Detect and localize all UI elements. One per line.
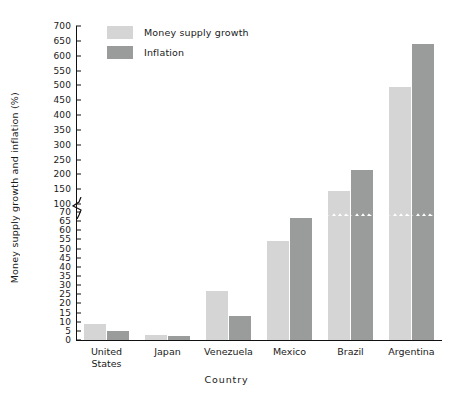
- bar: [107, 331, 129, 340]
- bar-group: [198, 26, 259, 340]
- x-axis-title: Country: [0, 374, 453, 385]
- y-tick-label-50: 50: [59, 244, 76, 254]
- y-tick-label-35: 35: [59, 271, 76, 281]
- y-tick-label-700: 700: [54, 21, 76, 31]
- bar: [206, 291, 228, 340]
- x-axis-label-japan: Japan: [137, 346, 198, 358]
- y-tick-label-350: 350: [54, 125, 76, 135]
- x-axis-label-brazil: Brazil: [320, 346, 381, 358]
- x-axis-label-mexico: Mexico: [259, 346, 320, 358]
- bar-break-icon: [412, 207, 434, 216]
- bar-group: [137, 26, 198, 340]
- y-tick-label-550: 550: [54, 66, 76, 76]
- bar-chart: Money supply growth and inflation (%) Mo…: [0, 0, 453, 401]
- bar: [290, 218, 312, 341]
- y-tick-label-25: 25: [59, 289, 76, 299]
- bar-groups: [76, 26, 442, 340]
- bar-break-icon: [328, 207, 350, 216]
- bar-group: [381, 26, 442, 340]
- bar-break-icon: [351, 207, 373, 216]
- bar: [412, 44, 434, 340]
- bar: [267, 241, 289, 340]
- x-axis-line: [76, 340, 442, 341]
- y-tick-label-55: 55: [59, 234, 76, 244]
- y-tick-label-400: 400: [54, 110, 76, 120]
- bar-break-icon: [389, 207, 411, 216]
- y-tick-label-30: 30: [59, 280, 76, 290]
- x-axis-label-united-states: UnitedStates: [76, 346, 137, 370]
- y-tick-label-150: 150: [54, 184, 76, 194]
- bar-group: [320, 26, 381, 340]
- y-tick-label-0: 0: [65, 335, 76, 345]
- bar: [168, 336, 190, 340]
- bar-group: [259, 26, 320, 340]
- x-axis-label-venezuela: Venezuela: [198, 346, 259, 358]
- y-tick-label-250: 250: [54, 155, 76, 165]
- y-tick-label-15: 15: [59, 308, 76, 318]
- bar: [389, 87, 411, 340]
- bar: [145, 335, 167, 340]
- y-tick-label-60: 60: [59, 225, 76, 235]
- y-tick-label-600: 600: [54, 51, 76, 61]
- y-tick-label-10: 10: [59, 317, 76, 327]
- bar: [328, 191, 350, 340]
- plot-area: 0510152025303540455055606570100150200250…: [76, 26, 442, 340]
- y-axis-title: Money supply growth and inflation (%): [9, 92, 25, 283]
- y-tick-label-45: 45: [59, 253, 76, 263]
- y-tick-label-5: 5: [65, 326, 76, 336]
- y-tick-label-200: 200: [54, 169, 76, 179]
- y-tick-label-650: 650: [54, 36, 76, 46]
- bar: [229, 316, 251, 340]
- bar: [84, 324, 106, 340]
- y-tick-label-500: 500: [54, 80, 76, 90]
- y-tick-label-20: 20: [59, 298, 76, 308]
- bar-group: [76, 26, 137, 340]
- y-tick-label-40: 40: [59, 262, 76, 272]
- y-tick-label-300: 300: [54, 140, 76, 150]
- y-tick-label-450: 450: [54, 95, 76, 105]
- x-axis-label-argentina: Argentina: [381, 346, 442, 358]
- bar: [351, 170, 373, 340]
